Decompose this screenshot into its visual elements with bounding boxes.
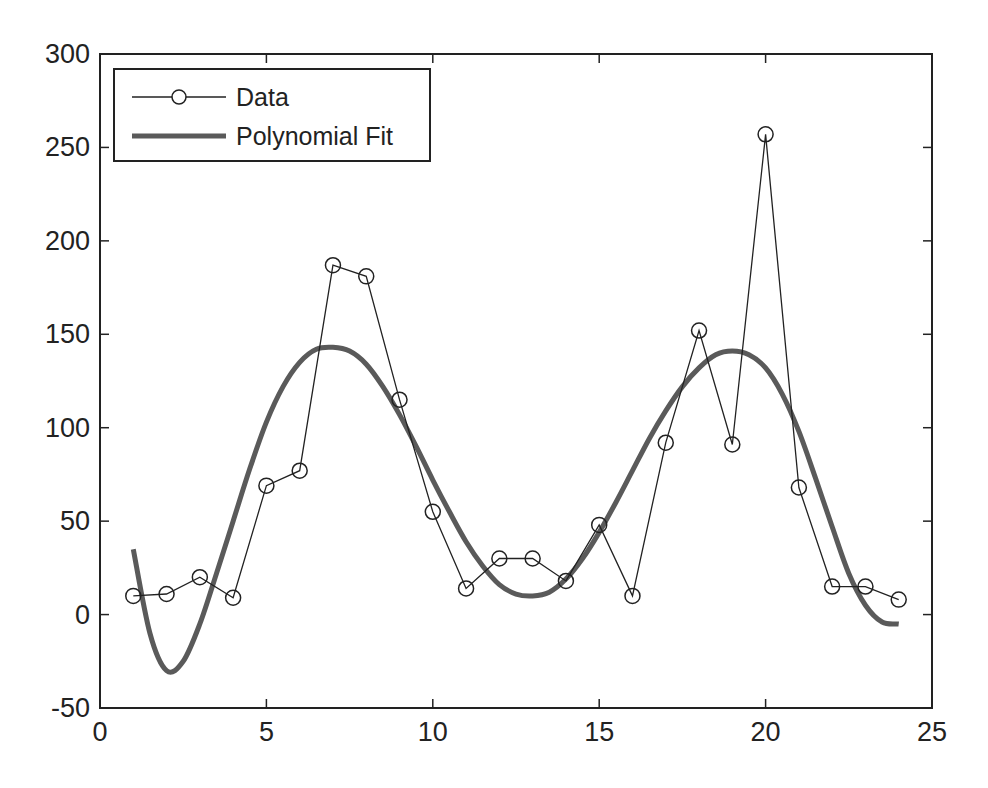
y-tick-label: 150	[45, 319, 90, 349]
y-tick-label: 250	[45, 132, 90, 162]
y-tick-label: 50	[60, 506, 90, 536]
y-tick-label: 300	[45, 39, 90, 69]
y-tick-label: 200	[45, 226, 90, 256]
x-tick-label: 25	[917, 717, 947, 747]
x-tick-label: 15	[584, 717, 614, 747]
y-tick-label: 100	[45, 413, 90, 443]
legend-label-data: Data	[236, 83, 289, 111]
legend-label-polynomial-fit: Polynomial Fit	[236, 122, 393, 150]
x-tick-label: 20	[751, 717, 781, 747]
x-tick-label: 10	[418, 717, 448, 747]
y-tick-label: -50	[51, 693, 90, 723]
chart-canvas: 0510152025 -50050100150200250300 Data Po…	[0, 0, 988, 788]
legend-data-marker-icon	[172, 90, 186, 104]
x-tick-label: 5	[259, 717, 274, 747]
x-tick-label: 0	[92, 717, 107, 747]
y-tick-label: 0	[75, 600, 90, 630]
legend: Data Polynomial Fit	[114, 69, 430, 161]
